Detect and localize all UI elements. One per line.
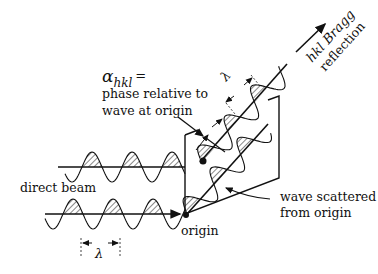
hatched-lobe bbox=[237, 137, 254, 154]
origin-dot bbox=[183, 212, 189, 218]
phase-label-line2: wave at origin bbox=[102, 103, 193, 118]
origin-label: origin bbox=[181, 223, 219, 238]
scattered-label-line2: from origin bbox=[280, 205, 352, 220]
scattered-label-line1: wave scattered bbox=[280, 189, 376, 204]
upper-incident-wave bbox=[58, 152, 185, 182]
hatched-lobe bbox=[210, 167, 227, 184]
scatterer-dot bbox=[200, 158, 207, 165]
lower-incident-wave bbox=[45, 199, 185, 229]
lower-scattered-wave bbox=[183, 124, 271, 214]
hatched-lobe bbox=[198, 145, 215, 161]
lambda-top-label: λ bbox=[216, 68, 233, 85]
direct-beam-label: direct beam bbox=[20, 180, 96, 195]
phase-label-line1: phase relative to bbox=[102, 86, 208, 101]
bragg-diagram: αhkl= phase relative to wave at origin d… bbox=[0, 0, 378, 274]
lambda-bottom-label: λ bbox=[94, 246, 103, 261]
phase-small-arrow-2 bbox=[212, 119, 222, 127]
